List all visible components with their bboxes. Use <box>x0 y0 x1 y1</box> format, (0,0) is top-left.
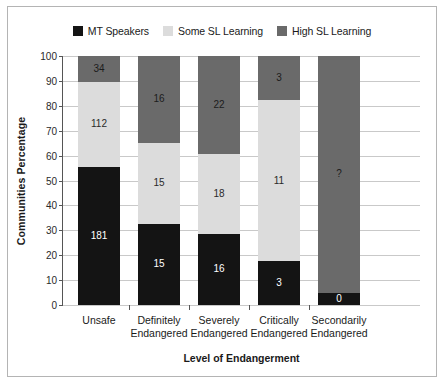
legend-label-1: Some SL Learning <box>178 25 263 37</box>
bar-segment-value-1-3: 11 <box>274 176 284 186</box>
x-category-label-4-line-0: Secondarily <box>296 314 382 327</box>
legend-label-2: High SL Learning <box>292 25 371 37</box>
x-category-label-4: SecondarilyEndangered <box>296 314 382 340</box>
y-tick-label-0: 0 <box>51 300 57 311</box>
y-axis-title-label: Communities Percentage <box>15 116 27 244</box>
bar-segment-value-2-0: 34 <box>93 64 104 74</box>
bar-segment-value-0-4: 0 <box>336 294 342 304</box>
legend-swatch-high-sl-learning <box>277 26 287 36</box>
y-tick-label-30: 30 <box>46 225 57 236</box>
x-tick-mark-2 <box>249 305 250 310</box>
y-tick-mark-0 <box>59 305 63 306</box>
bar-segment-value-1-1: 15 <box>153 178 164 188</box>
bar-critically-endangered[interactable]: 3113 <box>258 56 300 305</box>
y-tick-mark-30 <box>59 230 63 231</box>
bar-severely-endangered[interactable]: 161822 <box>198 56 240 305</box>
legend-item-1[interactable]: Some SL Learning <box>163 25 263 37</box>
y-tick-mark-40 <box>59 205 63 206</box>
plot-area: 010203040506070809010018111234Unsafe1515… <box>63 56 420 305</box>
chart-legend: MT SpeakersSome SL LearningHigh SL Learn… <box>0 25 444 37</box>
y-tick-label-100: 100 <box>40 51 57 62</box>
bar-segment-value-0-0: 181 <box>91 231 108 241</box>
y-tick-mark-10 <box>59 280 63 281</box>
bar-segment-2-1[interactable]: 16 <box>138 56 180 143</box>
y-tick-mark-20 <box>59 255 63 256</box>
chart-figure: MT SpeakersSome SL LearningHigh SL Learn… <box>0 0 444 391</box>
bar-segment-1-3[interactable]: 11 <box>258 100 300 261</box>
y-axis-title: Communities Percentage <box>14 56 28 305</box>
y-tick-label-70: 70 <box>46 125 57 136</box>
bar-segment-1-0[interactable]: 112 <box>78 82 120 167</box>
bar-segment-0-2[interactable]: 16 <box>198 234 240 305</box>
x-category-label-4-line-1: Endangered <box>296 327 382 340</box>
y-tick-mark-90 <box>59 81 63 82</box>
x-tick-mark-0 <box>129 305 130 310</box>
bar-segment-0-1[interactable]: 15 <box>138 224 180 305</box>
bar-segment-value-0-2: 16 <box>213 264 224 274</box>
bar-definitely-endangered[interactable]: 151516 <box>138 56 180 305</box>
bar-segment-value-1-0: 112 <box>91 119 107 129</box>
y-tick-mark-70 <box>59 131 63 132</box>
bar-segment-0-4[interactable]: 0 <box>318 293 360 305</box>
legend-item-2[interactable]: High SL Learning <box>277 25 371 37</box>
y-tick-label-40: 40 <box>46 200 57 211</box>
bar-segment-value-2-2: 22 <box>213 100 224 110</box>
bar-segment-0-0[interactable]: 181 <box>78 167 120 305</box>
legend-item-0[interactable]: MT Speakers <box>73 25 149 37</box>
x-axis-title: Level of Endangerment <box>63 352 420 364</box>
y-tick-label-50: 50 <box>46 175 57 186</box>
x-tick-mark-1 <box>189 305 190 310</box>
legend-swatch-some-sl-learning <box>163 26 173 36</box>
bar-segment-1-1[interactable]: 15 <box>138 143 180 224</box>
bar-segment-value-2-3: 3 <box>276 73 282 83</box>
gridline-0 <box>63 305 420 306</box>
bar-segment-1-2[interactable]: 18 <box>198 154 240 234</box>
plot-inner: 010203040506070809010018111234Unsafe1515… <box>63 56 420 305</box>
y-tick-label-60: 60 <box>46 150 57 161</box>
bar-segment-value-0-1: 15 <box>153 259 164 269</box>
y-tick-mark-100 <box>59 56 63 57</box>
bar-segment-2-3[interactable]: 3 <box>258 56 300 100</box>
bar-segment-2-2[interactable]: 22 <box>198 56 240 154</box>
bar-unsafe[interactable]: 18111234 <box>78 56 120 305</box>
legend-label-0: MT Speakers <box>88 25 149 37</box>
bar-segment-value-0-3: 3 <box>276 278 282 288</box>
x-tick-mark-3 <box>309 305 310 310</box>
legend-swatch-mt-speakers <box>73 26 83 36</box>
y-tick-mark-60 <box>59 156 63 157</box>
bar-segment-value-1-2: 18 <box>213 189 224 199</box>
y-tick-label-80: 80 <box>46 100 57 111</box>
y-tick-label-10: 10 <box>46 275 57 286</box>
y-tick-label-20: 20 <box>46 250 57 261</box>
y-tick-mark-50 <box>59 181 63 182</box>
bar-segment-2-0[interactable]: 34 <box>78 56 120 82</box>
bar-segment-value-2-4: ? <box>336 169 342 179</box>
bar-segment-2-4[interactable]: ? <box>318 56 360 293</box>
y-tick-label-90: 90 <box>46 75 57 86</box>
bar-segment-value-2-1: 16 <box>153 94 164 104</box>
y-tick-mark-80 <box>59 106 63 107</box>
bar-secondarily-endangered[interactable]: 0? <box>318 56 360 305</box>
bar-segment-0-3[interactable]: 3 <box>258 261 300 305</box>
